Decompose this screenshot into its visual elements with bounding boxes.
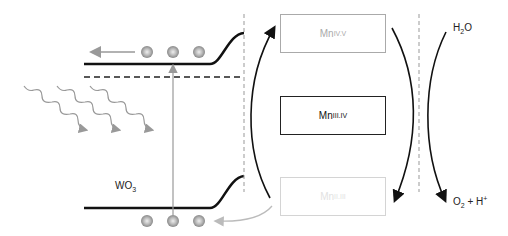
photon-waves bbox=[24, 86, 152, 130]
mn-state-ii-iii: MnII.III bbox=[280, 177, 386, 216]
oxygen-proton-label: O2 + H+ bbox=[453, 195, 487, 209]
wo3-label: WO3 bbox=[115, 180, 136, 193]
reduction-arc bbox=[392, 28, 413, 200]
mn-state-iii-iv: MnIII.IV bbox=[280, 96, 386, 135]
water-label: H2O bbox=[453, 22, 472, 35]
conduction-band bbox=[84, 33, 244, 64]
oxidation-arc bbox=[251, 28, 274, 198]
hole-transfer-arrow bbox=[216, 206, 272, 221]
diagram-canvas bbox=[0, 0, 508, 236]
valence-band bbox=[84, 176, 244, 208]
electrons bbox=[141, 46, 205, 58]
mn-state-iv-v: MnIV.V bbox=[280, 14, 386, 53]
holes bbox=[141, 215, 205, 227]
water-oxidation-arrow bbox=[428, 32, 446, 200]
